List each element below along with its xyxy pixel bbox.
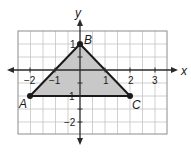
x-axis-right-arrow-icon xyxy=(171,67,178,73)
y-tick-label: 1 xyxy=(70,39,76,50)
vertex-a-point xyxy=(27,93,33,99)
x-tick-label: 2 xyxy=(128,75,134,86)
vertex-c-label: C xyxy=(132,98,141,112)
vertex-b-point xyxy=(77,41,83,47)
x-axis-label: x xyxy=(180,64,188,78)
coordinate-plane: x y −2 −1 1 2 3 1 1 −2 A B C xyxy=(0,0,191,153)
x-axis-left-arrow-icon xyxy=(7,67,14,73)
y-tick-label: 1 xyxy=(69,91,75,102)
y-tick-label: −2 xyxy=(64,117,76,128)
y-axis-down-arrow-icon xyxy=(77,138,83,145)
y-axis-up-arrow-icon xyxy=(77,19,83,26)
vertex-b-label: B xyxy=(84,33,92,47)
x-tick-label: 3 xyxy=(152,75,158,86)
y-axis-label: y xyxy=(74,6,82,20)
x-tick-label: −1 xyxy=(49,75,61,86)
x-tick-label: −2 xyxy=(24,75,36,86)
vertex-a-label: A xyxy=(18,97,27,111)
x-tick-label: 1 xyxy=(103,75,109,86)
